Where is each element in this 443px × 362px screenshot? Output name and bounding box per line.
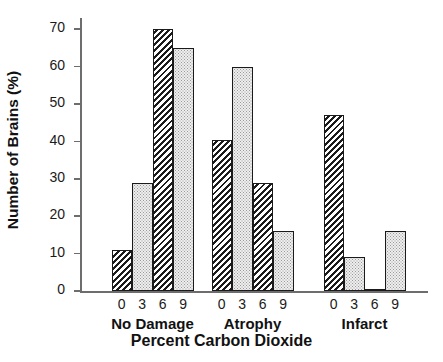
bar — [273, 231, 294, 291]
bar — [112, 250, 133, 291]
x-axis-tick-label: 9 — [270, 296, 296, 312]
y-axis-tick-label: 40 — [25, 132, 65, 148]
bar — [232, 67, 253, 291]
x-axis-line — [80, 291, 428, 293]
y-axis-tick: 60 — [74, 66, 80, 68]
y-axis-tick: 10 — [74, 253, 80, 255]
y-axis-tick-label: 50 — [25, 94, 65, 110]
bar-chart-figure: Number of Brains (%) 010203040506070 036… — [0, 0, 443, 362]
bar — [253, 183, 274, 291]
bar — [173, 48, 194, 291]
bar — [385, 231, 406, 291]
bar — [212, 140, 233, 291]
y-axis-tick: 40 — [74, 141, 80, 143]
y-axis-title: Number of Brains (%) — [0, 0, 26, 300]
x-axis-tick-label: 9 — [382, 296, 408, 312]
y-axis-tick-label: 70 — [25, 19, 65, 35]
y-axis-tick: 50 — [74, 103, 80, 105]
y-axis-tick-label: 30 — [25, 169, 65, 185]
y-axis-tick-label: 20 — [25, 206, 65, 222]
x-axis-tick-label: 9 — [170, 296, 196, 312]
x-axis-title: Percent Carbon Dioxide — [0, 332, 443, 350]
plot-area: 010203040506070 036903690369 No DamageAt… — [80, 18, 428, 291]
bar — [153, 29, 174, 291]
y-axis-tick: 0 — [74, 290, 80, 292]
y-axis-tick-label: 60 — [25, 57, 65, 73]
y-axis-tick-label: 10 — [25, 244, 65, 260]
bar — [324, 115, 345, 291]
y-axis-tick: 30 — [74, 178, 80, 180]
bar — [132, 183, 153, 291]
y-axis-title-text: Number of Brains (%) — [4, 71, 22, 229]
x-axis-group-label: Infarct — [290, 315, 440, 332]
bar — [344, 257, 365, 291]
y-axis-tick: 70 — [74, 28, 80, 30]
y-axis-tick-label: 0 — [25, 281, 65, 297]
y-axis-tick: 20 — [74, 215, 80, 217]
y-axis-line — [80, 18, 82, 291]
bar — [365, 289, 386, 291]
